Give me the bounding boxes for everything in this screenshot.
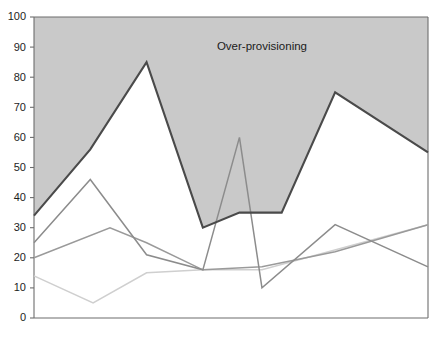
y-axis-tick-label: 10: [14, 281, 26, 293]
y-axis-tick-label: 70: [14, 101, 26, 113]
y-axis-tick-label: 20: [14, 251, 26, 263]
y-axis-tick-label: 0: [20, 311, 26, 323]
y-axis-tick-label: 80: [14, 71, 26, 83]
y-axis-tick-label: 60: [14, 131, 26, 143]
chart-annotations: Over-provisioning: [217, 40, 307, 52]
y-axis-tick-label: 90: [14, 41, 26, 53]
y-axis-tick-label: 100: [8, 10, 26, 22]
y-axis-ticks: 0102030405060708090100: [8, 10, 34, 323]
y-axis-tick-label: 50: [14, 161, 26, 173]
y-axis-tick-label: 40: [14, 191, 26, 203]
line-chart: 0102030405060708090100 Over-provisioning: [0, 0, 443, 340]
y-axis-tick-label: 30: [14, 221, 26, 233]
chart-container: 0102030405060708090100 Over-provisioning: [0, 0, 443, 340]
annotation-over-provisioning: Over-provisioning: [217, 40, 307, 52]
